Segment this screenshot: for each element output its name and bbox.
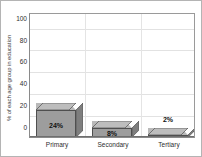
gridline-vertical — [141, 14, 142, 137]
gridline-horizontal — [30, 50, 194, 51]
x-tick-label-secondary: Secondary — [85, 140, 141, 149]
x-tick-label-tertiary: Tertiary — [141, 140, 197, 149]
y-tick-label: 60 — [11, 58, 27, 65]
plot-area: 24% 8% 2% — [29, 13, 195, 138]
bar-primary: 24% — [36, 110, 76, 137]
bar-value-label: 2% — [148, 116, 188, 124]
bar-top-outline — [36, 103, 76, 110]
bar-side-face — [76, 103, 83, 137]
x-axis-line — [30, 136, 194, 137]
gridline-horizontal — [30, 94, 194, 95]
bar-side-face — [132, 121, 139, 137]
bar-value-label: 24% — [37, 122, 75, 130]
bar-top-outline — [92, 121, 132, 128]
x-tick-label-primary: Primary — [29, 140, 85, 149]
y-tick-label: 40 — [11, 80, 27, 87]
chart-container: % of each age group in education 0 20 40… — [0, 0, 202, 157]
y-tick-label: 0 — [11, 123, 27, 130]
gridline-horizontal — [30, 29, 194, 30]
y-tick-label: 20 — [11, 101, 27, 108]
y-axis-tick-labels: 0 20 40 60 80 100 — [11, 13, 27, 138]
y-tick-label: 80 — [11, 36, 27, 43]
gridline-horizontal — [30, 72, 194, 73]
bar-front-face: 24% — [36, 110, 76, 137]
bar-top-outline — [148, 128, 188, 135]
y-tick-label: 100 — [11, 14, 27, 21]
gridline-vertical — [85, 14, 86, 137]
x-axis-tick-labels: Primary Secondary Tertiary — [29, 140, 195, 152]
